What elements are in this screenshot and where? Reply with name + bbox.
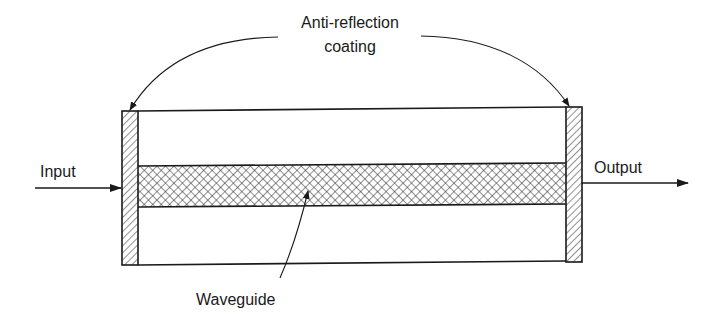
coating-label-line1: Anti-reflection — [285, 13, 415, 32]
coating-label-line2: coating — [285, 37, 415, 56]
coating-leader-left-icon — [130, 37, 278, 110]
waveguide-region — [138, 163, 566, 207]
input-label: Input — [40, 162, 76, 181]
waveguide-label: Waveguide — [196, 290, 275, 309]
right-coating — [566, 107, 582, 262]
coating-leader-right-icon — [421, 36, 569, 106]
left-coating — [122, 111, 138, 265]
output-label: Output — [594, 158, 642, 177]
